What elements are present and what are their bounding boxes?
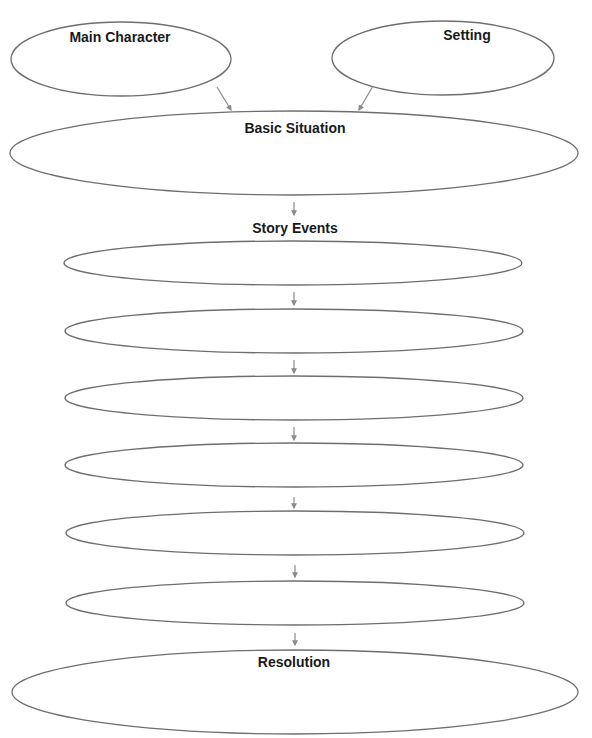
story-event-oval-2[interactable] [65,309,523,353]
story-event-oval-5[interactable] [66,511,524,555]
story-map-diagram [0,0,592,738]
story-event-oval-1[interactable] [64,241,522,285]
setting-label: Setting [443,27,490,43]
resolution-label: Resolution [258,654,330,670]
main-character-label: Main Character [69,29,170,45]
story-event-oval-4[interactable] [65,443,523,487]
story-event-oval-6[interactable] [66,581,524,625]
arrow-setting-to-situation [359,86,373,110]
basic-situation-label: Basic Situation [244,120,345,136]
arrow-main-character-to-situation [217,87,231,110]
story-events-label: Story Events [252,220,338,236]
story-event-oval-3[interactable] [65,376,523,420]
